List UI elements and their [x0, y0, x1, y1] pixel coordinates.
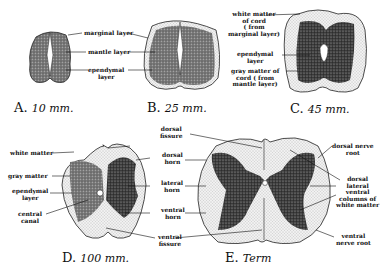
label-e-white-matter-columns: dorsal lateral ventral columns of white …: [336, 176, 379, 209]
label-d-white-matter: white matter: [10, 150, 53, 157]
caption-e-stage: Term: [243, 252, 272, 265]
label-dorsal-horn-line2: horn: [162, 159, 183, 166]
caption-b-stage: 25 mm.: [165, 102, 207, 115]
panel-e-section: [175, 134, 340, 244]
label-c-gray-matter: gray matter of cord ( from mantle layer): [231, 68, 279, 88]
label-lateral-horn: lateral horn: [161, 180, 183, 193]
label-c-ependymal-line2: layer: [237, 58, 273, 65]
label-a-ependymal-layer: ependymal layer: [88, 67, 124, 80]
label-c-ependymal-layer: ependymal layer: [237, 51, 273, 64]
label-ventral-fissure: ventral fissure: [158, 234, 182, 247]
label-dorsal-horn: dorsal horn: [162, 152, 183, 165]
panel-d-section: [46, 144, 155, 238]
caption-a: A. 10 mm.: [14, 100, 74, 115]
label-a-ependymal-line2: layer: [88, 74, 124, 81]
caption-c-letter: C.: [290, 101, 304, 116]
label-d-canal-line2: canal: [18, 218, 42, 225]
label-e-dnr-line2: root: [332, 150, 374, 157]
label-c-gray-line3: mantle layer): [231, 81, 279, 88]
label-a-marginal-layer: marginal layer: [84, 30, 133, 37]
label-d-central-canal: central canal: [18, 211, 42, 224]
label-c-white-line4: marginal layer): [228, 31, 280, 38]
label-dorsal-fissure-line2: fissure: [160, 133, 182, 140]
caption-c: C. 45 mm.: [290, 101, 350, 116]
label-d-gray-matter: gray matter: [8, 173, 48, 180]
label-d-ependymal-line2: layer: [12, 195, 48, 202]
label-lateral-horn-line2: horn: [161, 187, 183, 194]
label-e-vnr-line2: nerve root: [336, 240, 371, 247]
caption-e: E. Term: [225, 250, 271, 265]
caption-e-letter: E.: [225, 250, 239, 265]
label-ventral-horn: ventral horn: [161, 207, 185, 220]
label-ventral-fissure-line2: fissure: [158, 241, 182, 248]
caption-b-letter: B.: [147, 100, 161, 115]
label-d-ependymal-layer: ependymal layer: [12, 188, 48, 201]
label-dorsal-fissure: dorsal fissure: [160, 126, 182, 139]
panel-c-section: [266, 10, 366, 92]
panel-b-section: [128, 21, 220, 89]
caption-d: D. 100 mm.: [62, 250, 129, 265]
caption-d-letter: D.: [62, 250, 76, 265]
label-c-white-matter: white matter of cord ( from marginal lay…: [228, 11, 280, 37]
caption-a-stage: 10 mm.: [32, 102, 74, 115]
panel-a-section: [30, 32, 88, 83]
label-e-dorsal-nerve-root: dorsal nerve root: [332, 143, 374, 156]
caption-d-stage: 100 mm.: [80, 252, 129, 265]
caption-c-stage: 45 mm.: [308, 103, 350, 116]
label-a-mantle-layer: mantle layer: [88, 49, 130, 56]
spinal-cord-development-figure: [0, 0, 387, 269]
caption-b: B. 25 mm.: [147, 100, 207, 115]
caption-a-letter: A.: [14, 100, 28, 115]
label-ventral-horn-line2: horn: [161, 214, 185, 221]
label-e-ventral-nerve-root: ventral nerve root: [336, 233, 371, 246]
label-e-cols-line5: white matter: [336, 202, 379, 209]
